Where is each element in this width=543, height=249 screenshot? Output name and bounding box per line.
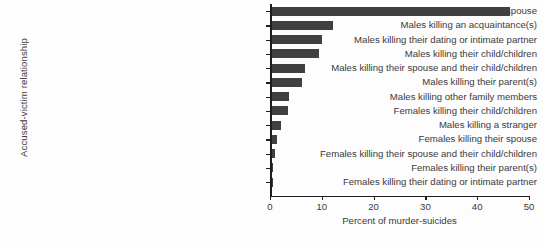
y-tick bbox=[266, 154, 270, 155]
bar bbox=[272, 106, 289, 115]
x-tick bbox=[374, 196, 375, 200]
x-tick bbox=[529, 196, 530, 200]
x-axis-line bbox=[270, 196, 529, 197]
y-tick bbox=[266, 40, 270, 41]
y-axis-title: Accused-victim relationship bbox=[18, 13, 29, 183]
bar-chart: Accused-victim relationship Males killin… bbox=[0, 0, 543, 249]
y-tick bbox=[266, 11, 270, 12]
bar bbox=[272, 178, 273, 187]
y-tick bbox=[266, 54, 270, 55]
x-tick-label: 10 bbox=[316, 201, 327, 212]
x-tick-label: 20 bbox=[368, 201, 379, 212]
bar bbox=[272, 121, 282, 130]
x-tick bbox=[477, 196, 478, 200]
x-tick-label: 40 bbox=[472, 201, 483, 212]
y-tick bbox=[266, 111, 270, 112]
y-tick bbox=[266, 182, 270, 183]
x-tick-label: 0 bbox=[267, 201, 272, 212]
bar bbox=[272, 64, 305, 73]
y-tick bbox=[266, 125, 270, 126]
y-tick bbox=[266, 68, 270, 69]
y-tick bbox=[266, 139, 270, 140]
bar bbox=[272, 149, 275, 158]
x-tick bbox=[425, 196, 426, 200]
bar bbox=[272, 35, 323, 44]
bar bbox=[272, 163, 273, 172]
x-tick bbox=[270, 196, 271, 200]
x-tick bbox=[322, 196, 323, 200]
bar bbox=[272, 78, 303, 87]
bar bbox=[272, 7, 510, 16]
bar bbox=[272, 135, 277, 144]
y-tick bbox=[266, 168, 270, 169]
plot-area bbox=[270, 0, 529, 196]
x-tick-label: 30 bbox=[420, 201, 431, 212]
x-tick-label: 50 bbox=[524, 201, 535, 212]
bar bbox=[272, 49, 320, 58]
x-axis-title: Percent of murder-suicides bbox=[270, 215, 529, 226]
bar bbox=[272, 92, 290, 101]
y-tick bbox=[266, 25, 270, 26]
y-tick bbox=[266, 82, 270, 83]
bar bbox=[272, 21, 333, 30]
y-tick bbox=[266, 97, 270, 98]
